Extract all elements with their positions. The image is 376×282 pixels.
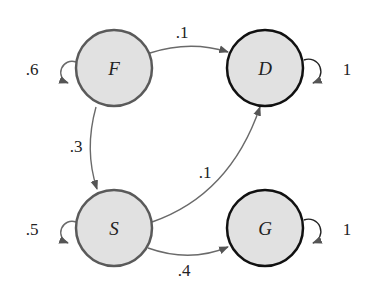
node-label-f: F <box>107 58 120 79</box>
self-loop-label-d: 1 <box>343 60 352 79</box>
edge-label-f-to-s: .3 <box>70 137 83 156</box>
edge-f-to-s <box>90 107 97 189</box>
edge-f-to-d <box>150 46 228 53</box>
self-loop-s <box>61 221 76 243</box>
node-label-g: G <box>258 218 272 239</box>
edge-label-s-to-g: .4 <box>178 261 191 280</box>
edge-s-to-g <box>148 247 228 255</box>
self-loop-g <box>304 219 321 243</box>
edge-label-f-to-d: .1 <box>176 23 189 42</box>
markov-chain-diagram: .1 .3 .1 .4 .6 .5 1 1 F D S G <box>0 0 376 282</box>
node-f: F <box>76 30 152 106</box>
node-d: D <box>227 30 303 106</box>
self-loop-f <box>61 61 76 83</box>
node-s: S <box>76 190 152 266</box>
self-loop-label-g: 1 <box>343 220 352 239</box>
node-g: G <box>227 190 303 266</box>
self-loop-label-s: .5 <box>26 220 39 239</box>
self-loop-label-f: .6 <box>26 60 39 79</box>
edge-label-s-to-d: .1 <box>199 163 212 182</box>
node-label-s: S <box>109 218 119 239</box>
node-label-d: D <box>257 58 272 79</box>
self-loop-d <box>304 59 321 83</box>
